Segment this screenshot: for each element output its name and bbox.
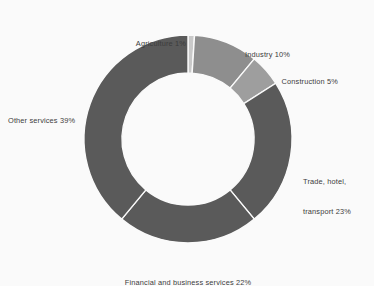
slice-label-construction-line-1: Construction 5%: [282, 77, 338, 87]
slice-label-financial-and-business-services: Financial and business services 22%: [125, 258, 251, 286]
slice-label-construction: Construction 5%: [282, 57, 338, 107]
donut-slice-financial-and-business-services: [122, 190, 255, 243]
donut-chart: Agriculture 1% Industry 10% Construction…: [0, 0, 374, 286]
slice-label-agriculture-line-1: Agriculture 1%: [136, 39, 186, 49]
slice-label-other-services-line-1: Other services 39%: [8, 116, 75, 126]
slice-label-financial-and-business-services-line-1: Financial and business services 22%: [125, 278, 251, 286]
slice-label-trade-hotel-transport: Trade, hotel, transport 23%: [303, 157, 351, 237]
slice-label-other-services: Other services 39%: [8, 96, 75, 146]
slice-label-agriculture: Agriculture 1%: [136, 19, 186, 69]
slice-label-trade-hotel-transport-line-1: Trade, hotel,: [303, 177, 351, 187]
slice-label-trade-hotel-transport-line-2: transport 23%: [303, 207, 351, 217]
